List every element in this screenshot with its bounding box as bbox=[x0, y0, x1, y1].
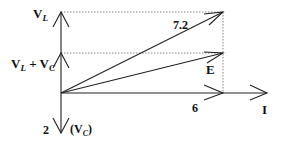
vc-value-label: 2 bbox=[43, 123, 49, 137]
e-label: E bbox=[206, 62, 215, 77]
resultant-arrowhead-icon bbox=[204, 12, 223, 25]
vc-label: (VC) bbox=[70, 122, 92, 138]
phasor-diagram: VL VL + VC 2 (VC) 7.2 E 6 I bbox=[0, 0, 291, 148]
resultant-value-label: 7.2 bbox=[173, 18, 188, 32]
e-phasor bbox=[61, 53, 223, 93]
i-value-label: 6 bbox=[192, 101, 198, 115]
vlvc-label: VL + VC bbox=[11, 56, 56, 73]
i-label: I bbox=[262, 102, 267, 117]
vl-label: VL bbox=[33, 6, 48, 23]
resultant-phasor bbox=[61, 12, 223, 93]
